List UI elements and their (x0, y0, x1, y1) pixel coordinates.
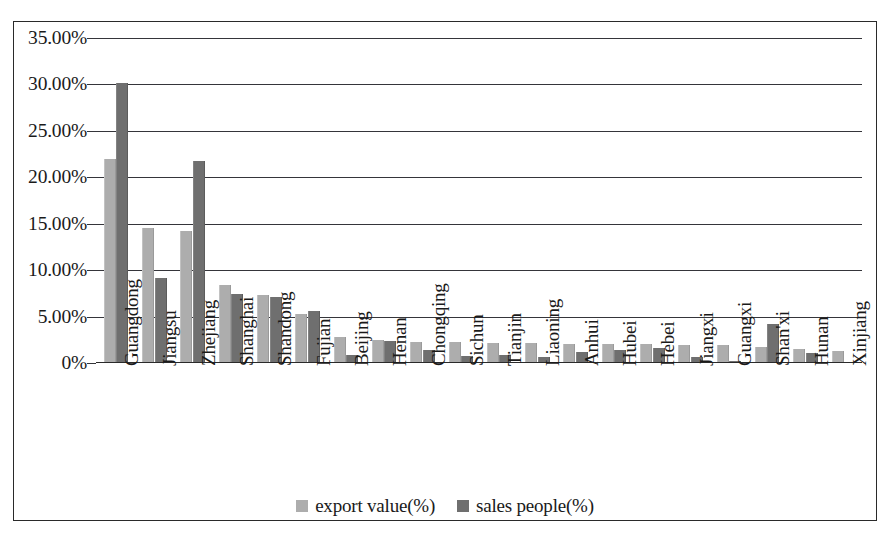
legend-label: export value(%) (315, 496, 435, 515)
legend-item: sales people(%) (457, 496, 594, 515)
x-axis-labels: GuangdongJiangsuZhejiangShanghaiShandong… (96, 366, 862, 506)
bar-export-value (487, 343, 499, 363)
x-axis-tick-label: Hubei (620, 321, 639, 366)
x-axis-tick-label: Anhui (582, 319, 601, 366)
x-axis-tick-label: Shanghai (237, 297, 256, 366)
legend-item: export value(%) (296, 496, 435, 515)
y-axis-tick-mark (87, 317, 96, 318)
y-axis-tick-label: 10.00% (28, 260, 87, 280)
bar-export-value (563, 344, 575, 363)
x-axis-tick-label: Guangxi (735, 302, 754, 366)
bar-export-value (602, 344, 614, 363)
bar-export-value (678, 345, 690, 363)
x-axis-tick-label: Shandong (275, 292, 294, 366)
x-axis-tick-label: Jiangxi (697, 313, 716, 367)
legend-label: sales people(%) (476, 496, 594, 515)
y-axis-tick-mark (87, 131, 96, 132)
chart-frame: 35.00%30.00%25.00%20.00%15.00%10.00%5.00… (13, 21, 877, 521)
legend-swatch-icon (457, 500, 469, 512)
x-axis-tick-label: Zhejiang (199, 300, 218, 366)
bar-export-value (717, 345, 729, 363)
chart-legend: export value(%)sales people(%) (14, 496, 876, 515)
x-axis-tick-label: Liaoning (543, 299, 562, 366)
bar-export-value (219, 285, 231, 363)
x-axis-tick-label: Hebei (658, 322, 677, 366)
x-axis-tick-label: Xinjiang (850, 301, 869, 366)
bar-export-value (449, 342, 461, 363)
bar-export-value (180, 231, 192, 363)
x-axis-tick-label: Beijing (352, 311, 371, 366)
y-axis-tick-mark (87, 84, 96, 85)
x-axis-tick-label: Fujian (314, 319, 333, 366)
x-axis-tick-label: Hunan (812, 316, 831, 366)
x-axis-tick-label: Shan'xi (773, 311, 792, 366)
y-axis-tick-label: 0% (61, 353, 87, 373)
y-axis-tick-label: 20.00% (28, 168, 87, 188)
x-axis-tick-label: Jiangsu (160, 310, 179, 366)
bar-export-value (640, 344, 652, 363)
y-axis-tick-label: 5.00% (38, 307, 87, 327)
y-axis-tick-mark (87, 363, 96, 364)
x-axis-tick-label: Sichun (467, 314, 486, 366)
bar-export-value (142, 228, 154, 363)
y-axis-tick-label: 25.00% (28, 121, 87, 141)
y-axis-tick-mark (87, 177, 96, 178)
y-axis-tick-label: 15.00% (28, 214, 87, 234)
y-axis-tick-mark (87, 270, 96, 271)
bar-export-value (372, 340, 384, 363)
x-axis-tick-label: Henan (390, 317, 409, 366)
y-axis-tick-mark (87, 38, 96, 39)
x-axis-tick-label: Guangdong (122, 279, 141, 366)
x-axis-tick-label: Chongqing (429, 283, 448, 366)
x-axis-tick-label: Tianjin (505, 313, 524, 366)
bar-group (632, 38, 670, 363)
bar-export-value (793, 349, 805, 363)
bar-export-value (525, 343, 537, 363)
bar-group (594, 38, 632, 363)
bar-export-value (334, 337, 346, 363)
y-axis-tick-mark (87, 224, 96, 225)
bar-export-value (755, 347, 767, 363)
y-axis-tick-label: 30.00% (28, 75, 87, 95)
y-axis-tick-label: 35.00% (28, 28, 87, 48)
bar-export-value (257, 295, 269, 363)
bar-export-value (410, 342, 422, 363)
bar-export-value (295, 314, 307, 363)
legend-swatch-icon (296, 500, 308, 512)
bar-export-value (104, 159, 116, 363)
